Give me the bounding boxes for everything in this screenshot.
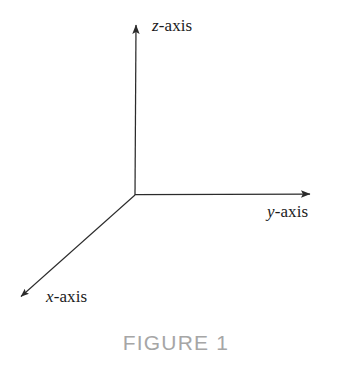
coordinate-axes-diagram: [0, 0, 352, 375]
y-axis-variable: y: [267, 202, 275, 221]
z-axis-line: [135, 25, 136, 195]
z-axis-suffix: -axis: [159, 16, 193, 35]
figure-caption: FIGURE 1: [0, 331, 352, 355]
x-axis-suffix: -axis: [54, 287, 88, 306]
y-axis-line: [135, 194, 310, 195]
y-axis-suffix: -axis: [275, 202, 309, 221]
figure-container: z-axis y-axis x-axis FIGURE 1: [0, 0, 352, 375]
x-axis-variable: x: [46, 287, 54, 306]
x-axis-label: x-axis: [46, 288, 87, 305]
z-axis-variable: z: [152, 16, 159, 35]
z-axis-label: z-axis: [152, 17, 192, 34]
x-axis-line: [21, 195, 135, 297]
y-axis-label: y-axis: [267, 203, 308, 220]
